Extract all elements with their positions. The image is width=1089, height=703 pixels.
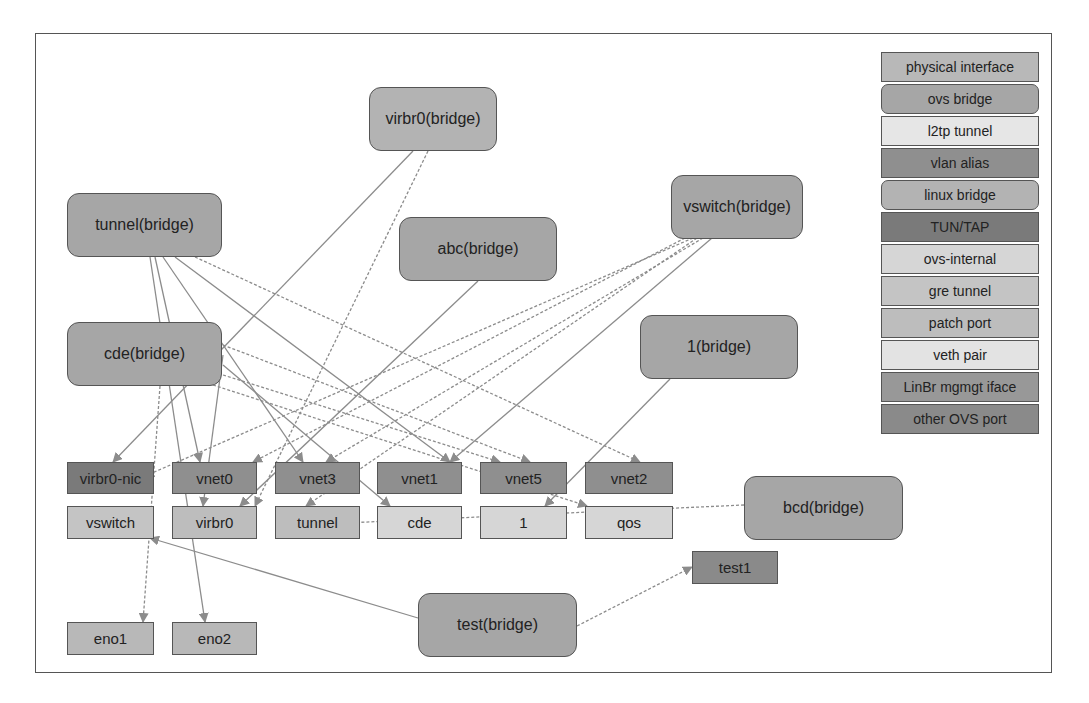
bridge-node-virbr0-bridge[interactable]: virbr0(bridge) [369,87,497,151]
node-label: vswitch(bridge) [683,198,791,216]
node-label: vnet5 [505,470,542,487]
node-label: 1(bridge) [687,338,751,356]
bridge-node-1-bridge[interactable]: 1(bridge) [640,315,798,379]
port-node-eno1[interactable]: eno1 [67,622,154,655]
node-label: test(bridge) [457,616,538,634]
legend-label: ovs bridge [928,91,993,107]
bridge-node-test-bridge[interactable]: test(bridge) [418,593,577,657]
port-node-virbr0-nic[interactable]: virbr0-nic [67,462,154,494]
legend-label: physical interface [906,59,1014,75]
port-node-test1[interactable]: test1 [692,551,778,584]
legend-item-linbr-mgmt-iface: LinBr mgmgt iface [881,372,1039,402]
bridge-node-abc-bridge[interactable]: abc(bridge) [399,217,557,281]
port-node-vnet0[interactable]: vnet0 [172,462,257,494]
legend-item-linux-bridge: linux bridge [881,180,1039,210]
legend-label: veth pair [933,347,987,363]
port-node-vnet1[interactable]: vnet1 [377,462,462,494]
legend-label: TUN/TAP [931,219,990,235]
legend-item-l2tp-tunnel: l2tp tunnel [881,116,1039,146]
port-node-vnet3[interactable]: vnet3 [275,462,360,494]
port-node-vswitch[interactable]: vswitch [67,506,154,539]
port-node-vnet2[interactable]: vnet2 [585,462,673,494]
legend-label: other OVS port [913,411,1006,427]
legend-item-veth-pair: veth pair [881,340,1039,370]
port-node-eno2[interactable]: eno2 [172,622,257,655]
node-label: 1 [519,514,527,531]
bridge-node-cde-bridge[interactable]: cde(bridge) [67,322,222,386]
legend-item-ovs-bridge: ovs bridge [881,84,1039,114]
node-label: eno1 [94,630,127,647]
node-label: abc(bridge) [438,240,519,258]
port-node-qos[interactable]: qos [585,506,673,539]
bridge-node-vswitch-bridge[interactable]: vswitch(bridge) [671,175,803,239]
node-label: virbr0(bridge) [385,110,480,128]
node-label: cde [407,514,431,531]
legend-label: linux bridge [924,187,996,203]
node-label: vnet3 [299,470,336,487]
node-label: vnet1 [401,470,438,487]
port-node-1[interactable]: 1 [480,506,567,539]
bridge-node-bcd-bridge[interactable]: bcd(bridge) [744,476,903,540]
port-node-cde[interactable]: cde [377,506,462,539]
node-label: test1 [719,559,752,576]
legend-item-ovs-internal: ovs-internal [881,244,1039,274]
node-label: vnet2 [611,470,648,487]
bridge-node-tunnel-bridge[interactable]: tunnel(bridge) [67,193,222,257]
port-node-vnet5[interactable]: vnet5 [480,462,567,494]
legend-label: vlan alias [931,155,989,171]
legend-label: patch port [929,315,991,331]
node-label: tunnel [297,514,338,531]
legend: physical interfaceovs bridgel2tp tunnelv… [881,52,1039,436]
legend-label: ovs-internal [924,251,996,267]
node-label: vnet0 [196,470,233,487]
legend-item-gre-tunnel: gre tunnel [881,276,1039,306]
node-label: eno2 [198,630,231,647]
node-label: tunnel(bridge) [95,216,194,234]
legend-item-patch-port: patch port [881,308,1039,338]
port-node-tunnel[interactable]: tunnel [275,506,360,539]
legend-item-other-ovs-port: other OVS port [881,404,1039,434]
node-label: vswitch [86,514,135,531]
legend-label: gre tunnel [929,283,991,299]
node-label: virbr0-nic [80,470,142,487]
legend-item-vlan-alias: vlan alias [881,148,1039,178]
node-label: cde(bridge) [104,345,185,363]
port-node-virbr0[interactable]: virbr0 [172,506,257,539]
legend-item-tun-tap: TUN/TAP [881,212,1039,242]
node-label: qos [617,514,641,531]
legend-label: l2tp tunnel [928,123,993,139]
node-label: virbr0 [196,514,234,531]
legend-label: LinBr mgmgt iface [904,379,1017,395]
legend-item-physical-interface: physical interface [881,52,1039,82]
node-label: bcd(bridge) [783,499,864,517]
